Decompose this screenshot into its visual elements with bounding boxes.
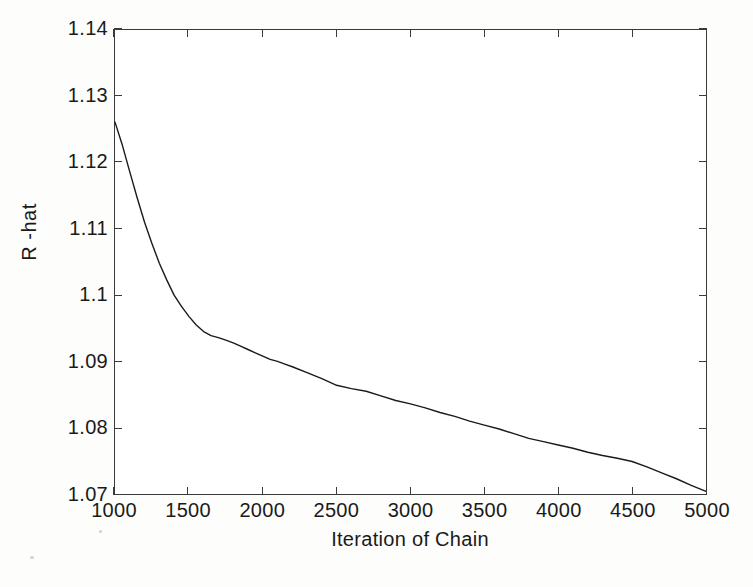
y-tick-label: 1.13 [68, 85, 108, 105]
x-tick-label: 1500 [165, 500, 211, 520]
y-tick-label: 1.11 [69, 218, 108, 238]
y-tick-label: 1.08 [68, 417, 108, 437]
x-tick-label: 5000 [684, 500, 730, 520]
x-tick-label: 3000 [388, 500, 434, 520]
y-tick-mark-right [699, 428, 707, 429]
x-tick-mark-top [558, 29, 559, 37]
x-tick-mark-top [410, 29, 411, 37]
x-tick-mark [262, 487, 263, 495]
x-tick-mark [113, 487, 114, 495]
x-tick-mark [558, 487, 559, 495]
x-tick-mark [187, 487, 188, 495]
x-tick-mark [706, 487, 707, 495]
y-tick-mark [114, 494, 122, 495]
y-tick-label: 1.09 [68, 351, 108, 371]
y-tick-mark [114, 428, 122, 429]
y-tick-mark [114, 361, 122, 362]
figure-canvas: R -hat 1.071.081.091.11.111.121.131.14 1… [0, 0, 753, 587]
plot-area [114, 29, 707, 495]
x-tick-mark [484, 487, 485, 495]
x-tick-mark-top [187, 29, 188, 37]
y-tick-label: 1.12 [68, 151, 108, 171]
x-tick-mark-top [262, 29, 263, 37]
y-tick-mark-right [699, 228, 707, 229]
x-tick-mark-top [336, 29, 337, 37]
x-tick-mark-top [632, 29, 633, 37]
scan-speck [30, 556, 34, 559]
y-tick-mark-right [699, 295, 707, 296]
y-tick-mark [114, 95, 122, 96]
x-tick-mark [336, 487, 337, 495]
series-line-chart [115, 30, 706, 494]
y-tick-mark [114, 28, 122, 29]
x-tick-label: 4500 [610, 500, 656, 520]
y-tick-mark-right [699, 95, 707, 96]
y-axis-title: R -hat [18, 203, 41, 260]
x-tick-mark [410, 487, 411, 495]
x-tick-mark [632, 487, 633, 495]
x-tick-mark-top [706, 29, 707, 37]
y-tick-label: 1.14 [68, 18, 108, 38]
x-axis-title: Iteration of Chain [331, 528, 489, 551]
y-tick-mark [114, 295, 122, 296]
x-tick-mark-top [113, 29, 114, 37]
series-rhat-line [115, 122, 706, 491]
x-tick-mark-top [484, 29, 485, 37]
x-tick-label: 2000 [239, 500, 285, 520]
x-tick-label: 4000 [536, 500, 582, 520]
y-tick-mark-right [699, 161, 707, 162]
x-tick-label: 1000 [91, 500, 137, 520]
x-tick-label: 3500 [462, 500, 508, 520]
scan-speck [99, 530, 102, 533]
y-tick-mark-right [699, 361, 707, 362]
y-tick-mark [114, 161, 122, 162]
y-tick-mark [114, 228, 122, 229]
x-tick-label: 2500 [314, 500, 360, 520]
y-tick-label: 1.1 [79, 284, 108, 304]
